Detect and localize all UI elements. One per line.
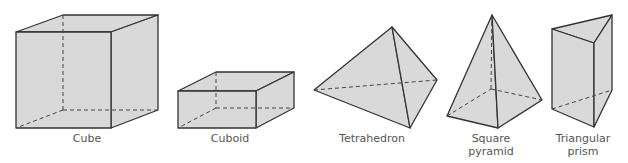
triangular-prism-label: Triangular prism (556, 132, 611, 158)
triangular-prism-shape (552, 15, 612, 127)
triangular-prism-label-line1: Triangular (556, 132, 611, 145)
cube-shape (16, 15, 158, 128)
tetrahedron-shape (314, 27, 437, 128)
triangular-prism-label-line2: prism (556, 145, 611, 158)
tetrahedron-label: Tetrahedron (339, 132, 405, 145)
cuboid-label: Cuboid (211, 132, 249, 145)
cuboid-label-text: Cuboid (211, 132, 249, 145)
square-pyramid-label-line2: pyramid (468, 145, 514, 158)
cube-label-text: Cube (73, 132, 101, 145)
cuboid-shape (178, 72, 294, 128)
square-pyramid-label-line1: Square (468, 132, 514, 145)
cube-label: Cube (73, 132, 101, 145)
tetrahedron-label-text: Tetrahedron (339, 132, 405, 145)
square-pyramid-shape (447, 15, 542, 128)
square-pyramid-label: Square pyramid (468, 132, 514, 158)
